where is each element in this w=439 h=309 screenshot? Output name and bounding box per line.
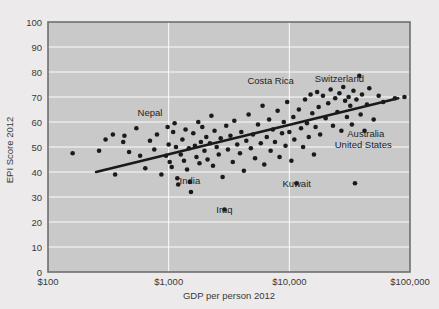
- annotation-label: Iraq: [216, 204, 232, 215]
- data-point: [196, 120, 201, 125]
- y-axis-title: EPI Score 2012: [4, 117, 15, 184]
- data-point: [371, 117, 376, 122]
- data-point: [194, 155, 199, 160]
- data-point: [350, 122, 355, 127]
- data-point: [232, 118, 237, 123]
- data-point: [226, 147, 231, 152]
- data-point: [174, 145, 179, 150]
- data-point: [282, 120, 287, 125]
- data-point: [224, 123, 229, 128]
- data-point: [315, 90, 320, 95]
- data-point: [244, 138, 249, 143]
- data-point: [280, 131, 285, 136]
- data-point: [180, 137, 185, 142]
- annotation-label: Kuwait: [282, 178, 311, 189]
- data-point: [148, 138, 153, 143]
- data-point: [262, 162, 267, 167]
- data-point: [167, 160, 172, 165]
- data-point: [316, 105, 321, 110]
- data-point: [143, 166, 148, 171]
- annotation-label: India: [180, 175, 201, 186]
- data-point: [182, 158, 187, 163]
- data-point: [155, 132, 160, 137]
- data-point: [267, 117, 272, 122]
- data-point: [172, 121, 177, 126]
- y-tick-label: 50: [31, 142, 42, 153]
- data-point: [297, 107, 302, 112]
- data-point: [341, 85, 346, 90]
- data-point: [343, 98, 348, 103]
- data-point: [318, 132, 323, 137]
- data-point: [321, 93, 326, 98]
- data-point: [169, 165, 174, 170]
- data-point: [275, 108, 280, 113]
- data-point: [214, 145, 219, 150]
- annotation-label: Australia: [347, 128, 385, 139]
- data-point: [260, 103, 265, 108]
- data-point: [376, 93, 381, 98]
- x-axis-title: GDP per person 2012: [183, 290, 275, 301]
- data-point: [277, 155, 282, 160]
- data-point: [191, 131, 196, 136]
- data-point: [354, 97, 359, 102]
- data-point: [249, 146, 254, 151]
- y-tick-label: 90: [31, 42, 42, 53]
- data-point: [339, 128, 344, 133]
- data-point: [402, 95, 407, 100]
- data-point: [97, 148, 102, 153]
- data-point: [199, 140, 204, 145]
- data-point: [292, 137, 297, 142]
- data-point: [346, 95, 351, 100]
- data-point: [308, 92, 313, 97]
- data-point: [246, 112, 251, 117]
- data-point: [353, 181, 358, 186]
- data-point: [264, 135, 269, 140]
- y-tick-label: 60: [31, 117, 42, 128]
- chart-canvas: $100$1,000$10,000$100,000 01020304050607…: [0, 0, 439, 309]
- y-tick-label: 10: [31, 242, 42, 253]
- data-point: [113, 172, 118, 177]
- data-point: [367, 86, 372, 91]
- data-point: [218, 136, 223, 141]
- data-point: [337, 91, 342, 96]
- data-point: [171, 130, 176, 135]
- data-point: [209, 113, 214, 118]
- y-tick-label: 20: [31, 217, 42, 228]
- data-point: [166, 142, 171, 147]
- y-tick-label: 0: [37, 267, 42, 278]
- data-point: [312, 152, 317, 157]
- data-point: [310, 111, 315, 116]
- data-point: [258, 141, 263, 146]
- data-point: [185, 167, 190, 172]
- data-point: [291, 115, 296, 120]
- data-point: [121, 140, 126, 145]
- data-point: [228, 133, 233, 138]
- data-point: [351, 88, 356, 93]
- data-point: [285, 100, 290, 105]
- data-point: [111, 132, 116, 137]
- data-point: [283, 143, 288, 148]
- data-point: [242, 168, 247, 173]
- data-point: [289, 158, 294, 163]
- data-point: [328, 87, 333, 92]
- data-point: [212, 128, 217, 133]
- data-point: [134, 126, 139, 131]
- data-point: [287, 130, 292, 135]
- data-point: [301, 145, 306, 150]
- data-point: [253, 156, 258, 161]
- data-point: [307, 135, 312, 140]
- data-point: [268, 148, 273, 153]
- data-point: [235, 142, 240, 147]
- data-point: [256, 122, 261, 127]
- x-tick-label: $100: [37, 276, 58, 287]
- data-point: [360, 92, 365, 97]
- data-point: [205, 157, 210, 162]
- data-point: [230, 160, 235, 165]
- y-tick-label: 80: [31, 67, 42, 78]
- data-point: [358, 112, 363, 117]
- data-point: [70, 151, 75, 156]
- data-point: [220, 175, 225, 180]
- data-point: [303, 97, 308, 102]
- annotation-label: United States: [335, 139, 392, 150]
- x-tick-label: $100,000: [390, 276, 430, 287]
